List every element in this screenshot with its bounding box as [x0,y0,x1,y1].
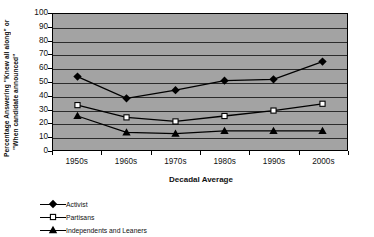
y-axis-tick-label: 80 [22,37,48,45]
y-axis-tick-mark [48,123,52,124]
legend-item: Partisans [40,211,270,223]
x-axis-tick-label: 1980s [203,157,247,166]
data-point-triangle [49,226,57,233]
x-axis-tick-label: 1990s [252,157,296,166]
legend-marker-glyph [47,224,59,236]
x-axis-tick-mark [151,151,152,155]
data-point-square-open [222,113,227,118]
legend-label: Activist [66,201,88,208]
series-activist [73,57,326,102]
y-axis-tick-mark [48,41,52,42]
legend-marker-triangle [40,224,66,236]
legend-item: Activist [40,198,270,210]
series-partisans [75,101,325,124]
x-axis-tick-mark [299,151,300,155]
x-axis-tick-mark [52,151,53,155]
series-line [78,104,323,122]
y-axis-tick-label: 60 [22,64,48,72]
x-axis-tick-mark [249,151,250,155]
y-axis-tick-mark [48,151,52,152]
legend-marker-glyph [47,198,59,210]
line-chart: Percentage Answering "Knew all along" or… [0,0,374,237]
data-point-square-open [50,214,55,219]
plot-area [52,13,348,151]
x-axis-tick-label: 1950s [55,157,99,166]
y-axis-tick-mark [48,68,52,69]
legend-marker-glyph [47,211,59,223]
x-axis-tick-label: 2000s [301,157,345,166]
x-axis-tick-mark [348,151,349,155]
y-axis-tick-mark [48,13,52,14]
x-axis-tick-mark [200,151,201,155]
y-axis-tick-label: 40 [22,92,48,100]
y-axis-tick-mark [48,110,52,111]
data-point-diamond [73,72,81,80]
y-axis-tick-label: 20 [22,119,48,127]
legend-item: Independents and Leaners [40,224,270,236]
data-point-diamond [49,200,57,208]
chart-legend: ActivistPartisansIndependents and Leaner… [40,198,270,237]
data-point-square-open [320,101,325,106]
data-point-square-open [271,108,276,113]
y-axis-tick-label: 90 [22,23,48,31]
data-point-diamond [220,77,228,85]
y-axis-tick-label: 50 [22,78,48,86]
data-point-square-open [124,115,129,120]
legend-marker-diamond [40,198,66,210]
x-axis-title: Decadal Average [0,175,374,184]
legend-label: Partisans [66,214,94,221]
y-axis-tick-label: 100 [22,9,48,17]
data-point-diamond [171,86,179,94]
series-line [78,62,323,99]
data-point-diamond [122,94,130,102]
data-point-triangle [73,112,81,119]
y-axis-title-line-1: Percentage Answering "Knew all along" or [3,10,10,166]
legend-label: Independents and Leaners [66,227,147,234]
y-axis-tick-label: 0 [22,147,48,155]
y-axis-tick-mark [48,137,52,138]
y-axis-tick-label: 70 [22,50,48,58]
data-point-diamond [318,57,326,65]
y-axis-title-line-2: "When candidate announced" [12,38,19,166]
x-axis-tick-mark [101,151,102,155]
series-layer [53,14,347,150]
legend-marker-square-open [40,211,66,223]
x-axis-tick-label: 1960s [104,157,148,166]
data-point-square-open [173,119,178,124]
data-point-square-open [75,103,80,108]
y-axis-tick-mark [48,54,52,55]
series-independents-and-leaners [73,112,326,137]
y-axis-tick-mark [48,27,52,28]
y-axis-tick-label: 10 [22,133,48,141]
y-axis-tick-mark [48,82,52,83]
data-point-diamond [269,75,277,83]
y-axis-tick-label: 30 [22,106,48,114]
x-axis-tick-label: 1970s [153,157,197,166]
y-axis-tick-mark [48,96,52,97]
